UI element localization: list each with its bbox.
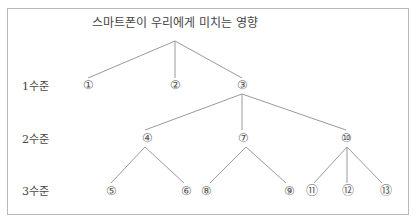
diagram-title: 스마트폰이 우리에게 미치는 영향 bbox=[90, 13, 260, 30]
node-11: ⑪ bbox=[302, 184, 322, 198]
node-2: ② bbox=[165, 78, 185, 92]
node-7: ⑦ bbox=[233, 131, 253, 145]
node-8: ⑧ bbox=[196, 184, 216, 198]
node-6: ⑥ bbox=[176, 184, 196, 198]
node-9: ⑨ bbox=[279, 184, 299, 198]
level-3-label: 3수준 bbox=[22, 182, 49, 198]
node-1: ① bbox=[78, 78, 98, 92]
node-4: ④ bbox=[137, 131, 157, 145]
node-5: ⑤ bbox=[101, 184, 121, 198]
node-13: ⑬ bbox=[376, 184, 396, 198]
node-12: ⑫ bbox=[338, 184, 358, 198]
level-2-label: 2수준 bbox=[22, 130, 49, 146]
level-1-label: 1수준 bbox=[22, 77, 49, 93]
node-10: ⑩ bbox=[336, 131, 356, 145]
node-3: ③ bbox=[232, 78, 252, 92]
